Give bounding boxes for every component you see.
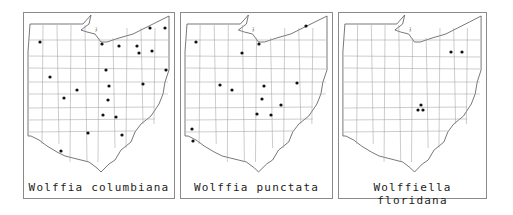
- county-record-dot: [218, 83, 221, 86]
- map-panel-wolffiella-floridana: ﾇ Wolffiella floridana: [338, 12, 487, 199]
- county-record-dot: [191, 139, 194, 142]
- county-record-dot: [104, 68, 107, 71]
- county-record-dot: [262, 84, 265, 87]
- county-record-dot: [240, 51, 243, 54]
- county-record-dot: [295, 81, 298, 84]
- county-record-dot: [269, 113, 272, 116]
- county-record-dot: [190, 127, 193, 130]
- county-record-dot: [117, 44, 120, 47]
- county-record-dot: [62, 96, 65, 99]
- map-panel-wolffia-columbiana: ﾇ Wolffia columbiana: [23, 12, 175, 199]
- county-record-dot: [279, 103, 282, 106]
- county-record-dot: [230, 88, 233, 91]
- county-record-dot: [304, 24, 307, 27]
- map-panel-wolffia-punctata: ﾇ Wolffia punctata: [180, 12, 333, 199]
- lake-erie-islands: ﾇ: [95, 26, 98, 32]
- ohio-county-map: ﾇ: [338, 12, 487, 199]
- county-boundaries: [29, 25, 168, 162]
- county-record-dot: [137, 51, 140, 54]
- county-record-dot: [48, 75, 51, 78]
- county-record-dot: [260, 97, 263, 100]
- county-record-dot: [59, 149, 62, 152]
- county-record-dot: [114, 115, 117, 118]
- ohio-county-map: ﾇ: [23, 12, 175, 199]
- county-record-dot: [421, 108, 424, 111]
- county-record-dot: [257, 42, 260, 45]
- county-record-dot: [38, 40, 41, 43]
- county-boundaries: [344, 25, 480, 162]
- county-record-dot: [86, 131, 89, 134]
- county-record-dot: [141, 82, 144, 85]
- county-record-dot: [120, 133, 123, 136]
- county-record-dot: [100, 42, 103, 45]
- county-record-dot: [460, 50, 463, 53]
- county-record-dot: [106, 98, 109, 101]
- county-record-dot: [164, 68, 167, 71]
- species-caption: Wolffia punctata: [180, 181, 333, 194]
- county-record-dot: [75, 88, 78, 91]
- county-record-dot: [194, 40, 197, 43]
- county-boundaries: [186, 25, 326, 162]
- county-record-dot: [255, 112, 258, 115]
- county-record-dot: [419, 103, 422, 106]
- county-record-dot: [163, 26, 166, 29]
- lake-erie-islands: ﾇ: [252, 26, 255, 32]
- county-record-dot: [449, 50, 452, 53]
- county-record-dot: [135, 44, 138, 47]
- species-caption: Wolffiella floridana: [338, 181, 487, 207]
- species-caption: Wolffia columbiana: [23, 181, 175, 194]
- county-record-dot: [416, 108, 419, 111]
- county-record-dot: [150, 49, 153, 52]
- lake-erie-islands: ﾇ: [409, 26, 412, 32]
- county-record-dot: [107, 84, 110, 87]
- county-record-dot: [148, 26, 151, 29]
- county-record-dot: [101, 113, 104, 116]
- ohio-county-map: ﾇ: [180, 12, 333, 199]
